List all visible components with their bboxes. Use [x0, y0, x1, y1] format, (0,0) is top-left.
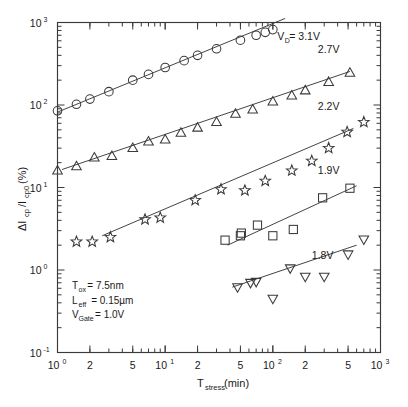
chart-figure: 100251012510225103 10-1100101102103 VD =…	[0, 0, 408, 407]
svg-text:= 3.1V: = 3.1V	[289, 30, 320, 42]
svg-text:= 1.0V: = 1.0V	[95, 309, 125, 320]
svg-text:ΔI: ΔI	[16, 221, 28, 231]
series-label-0: VD = 3.1V	[277, 30, 320, 44]
svg-text:10: 10	[30, 182, 42, 194]
svg-text:0: 0	[63, 358, 67, 365]
svg-text:1: 1	[170, 358, 174, 365]
svg-text:1: 1	[44, 181, 48, 188]
svg-text:2: 2	[44, 98, 48, 105]
svg-text:ox: ox	[79, 286, 87, 293]
svg-text:10: 10	[263, 359, 275, 371]
svg-text:(%): (%)	[16, 167, 28, 184]
svg-text:1.8V: 1.8V	[312, 249, 334, 261]
svg-text:T: T	[197, 377, 204, 389]
svg-text:/I: /I	[16, 201, 28, 207]
svg-text:10: 10	[30, 347, 42, 359]
svg-text:eff: eff	[79, 301, 87, 308]
x-tick-label: 5	[130, 359, 136, 371]
svg-text:2: 2	[195, 359, 201, 371]
svg-text:2: 2	[87, 359, 93, 371]
svg-text:10: 10	[30, 99, 42, 111]
series-label-3: 1.9V	[318, 164, 340, 176]
svg-text:10: 10	[371, 359, 383, 371]
svg-text:1.9V: 1.9V	[318, 164, 340, 176]
svg-text:0: 0	[44, 263, 48, 270]
svg-text:10: 10	[30, 264, 42, 276]
svg-text:V: V	[277, 30, 284, 42]
svg-text:= 0.15µm: = 0.15µm	[91, 295, 133, 306]
svg-text:-1: -1	[44, 346, 50, 353]
series-label-2: 2.2V	[318, 100, 340, 112]
x-tick-label: 2	[195, 359, 201, 371]
series-label-4: 1.8V	[312, 249, 334, 261]
x-tick-label: 5	[238, 359, 244, 371]
x-tick-label: 2	[302, 359, 308, 371]
svg-text:2: 2	[278, 358, 282, 365]
svg-text:Gate: Gate	[79, 315, 94, 322]
svg-text:cp: cp	[22, 209, 31, 217]
svg-text:L: L	[72, 295, 78, 306]
svg-text:2: 2	[302, 359, 308, 371]
svg-text:10: 10	[155, 359, 167, 371]
svg-text:2.2V: 2.2V	[318, 100, 340, 112]
svg-text:3: 3	[44, 16, 48, 23]
svg-text:cp0: cp0	[22, 186, 31, 198]
log-log-scatter-plot: 100251012510225103 10-1100101102103 VD =…	[0, 0, 408, 407]
svg-text:10: 10	[30, 17, 42, 29]
chart-background	[0, 0, 408, 407]
svg-text:5: 5	[130, 359, 136, 371]
svg-text:10: 10	[48, 359, 60, 371]
svg-text:stress: stress	[205, 383, 225, 392]
svg-text:T: T	[72, 280, 78, 291]
svg-text:= 7.5nm: = 7.5nm	[87, 280, 123, 291]
svg-text:(min): (min)	[224, 377, 249, 389]
x-tick-label: 2	[87, 359, 93, 371]
x-tick-label: 5	[345, 359, 351, 371]
series-label-1: 2.7V	[318, 43, 340, 55]
svg-text:2.7V: 2.7V	[318, 43, 340, 55]
svg-text:3: 3	[386, 358, 390, 365]
svg-text:5: 5	[345, 359, 351, 371]
svg-text:5: 5	[238, 359, 244, 371]
